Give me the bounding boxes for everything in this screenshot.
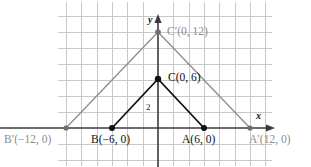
label-a-prime: A′(12, 0) xyxy=(249,133,290,145)
label-scale-factor: 2 xyxy=(146,102,151,112)
vertex-dot-a xyxy=(201,125,207,131)
label-c: C(0, 6) xyxy=(168,71,201,83)
vertex-dot-c-prime xyxy=(155,29,161,35)
vertex-dot-b xyxy=(109,125,115,131)
y-axis-arrowhead xyxy=(154,14,161,23)
vertex-dot-c xyxy=(155,76,161,82)
vertex-dot-a-prime xyxy=(247,125,252,130)
label-b-prime: B′(−12, 0) xyxy=(4,133,51,145)
x-axis-arrowhead xyxy=(266,124,275,131)
coordinate-plane-figure: C′(0, 12) C(0, 6) B′(−12, 0) B(−6, 0) A(… xyxy=(0,0,311,167)
label-a: A(6, 0) xyxy=(182,133,215,145)
label-b: B(−6, 0) xyxy=(91,133,130,145)
label-y-axis: y xyxy=(148,14,152,25)
vertex-dot-b-prime xyxy=(63,125,68,130)
label-c-prime: C′(0, 12) xyxy=(167,25,208,37)
label-x-axis: x xyxy=(256,110,261,121)
